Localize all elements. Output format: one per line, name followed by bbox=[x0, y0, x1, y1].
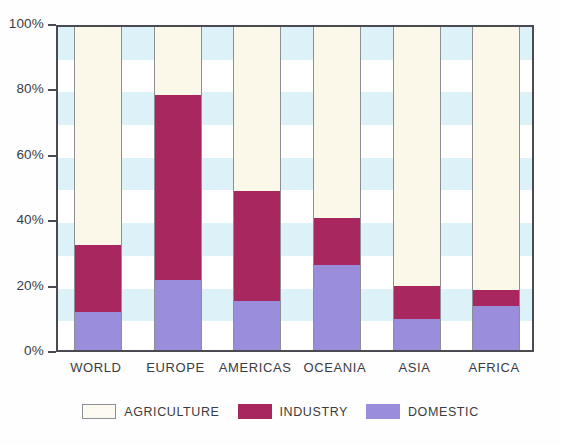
y-tick-mark bbox=[48, 351, 56, 353]
bar-segment-agriculture[interactable] bbox=[233, 25, 281, 191]
bar-segment-domestic[interactable] bbox=[233, 301, 281, 350]
legend-item-industry[interactable]: INDUSTRY bbox=[238, 404, 348, 419]
bar-segment-industry[interactable] bbox=[313, 218, 361, 265]
y-tick-label: 20% bbox=[0, 278, 44, 293]
bar-segment-agriculture[interactable] bbox=[393, 25, 441, 286]
chart-legend: AGRICULTUREINDUSTRYDOMESTIC bbox=[0, 404, 561, 419]
bar-group-world[interactable] bbox=[74, 27, 122, 350]
bar-group-africa[interactable] bbox=[472, 27, 520, 350]
bar-group-asia[interactable] bbox=[393, 27, 441, 350]
legend-item-agriculture[interactable]: AGRICULTURE bbox=[82, 404, 219, 419]
bar-segment-industry[interactable] bbox=[472, 290, 520, 306]
bar-segment-industry[interactable] bbox=[74, 245, 122, 312]
bar-group-oceania[interactable] bbox=[313, 27, 361, 350]
legend-swatch-agriculture-icon bbox=[82, 404, 116, 419]
y-tick-label: 60% bbox=[0, 147, 44, 162]
legend-swatch-industry-icon bbox=[238, 404, 272, 419]
bar-segment-agriculture[interactable] bbox=[154, 25, 202, 95]
y-tick-label: 40% bbox=[0, 212, 44, 227]
bar-segment-domestic[interactable] bbox=[472, 306, 520, 350]
bar-segment-industry[interactable] bbox=[154, 95, 202, 280]
chart-figure: 0%20%40%60%80%100% WORLDEUROPEAMERICASOC… bbox=[0, 0, 561, 445]
bar-segment-agriculture[interactable] bbox=[472, 25, 520, 290]
bars-layer bbox=[58, 27, 532, 350]
legend-label: AGRICULTURE bbox=[124, 405, 219, 419]
legend-label: INDUSTRY bbox=[280, 405, 348, 419]
bar-segment-domestic[interactable] bbox=[393, 319, 441, 350]
y-tick-mark bbox=[48, 155, 56, 157]
y-tick-mark bbox=[48, 89, 56, 91]
bar-group-americas[interactable] bbox=[233, 27, 281, 350]
y-tick-label: 100% bbox=[0, 16, 44, 31]
bar-segment-domestic[interactable] bbox=[74, 312, 122, 350]
bar-segment-industry[interactable] bbox=[393, 286, 441, 319]
legend-swatch-domestic-icon bbox=[366, 404, 400, 419]
plot-area bbox=[56, 25, 534, 352]
y-tick-label: 80% bbox=[0, 81, 44, 96]
bar-segment-agriculture[interactable] bbox=[74, 25, 122, 245]
y-tick-label: 0% bbox=[0, 343, 44, 358]
bar-segment-industry[interactable] bbox=[233, 191, 281, 301]
y-tick-mark bbox=[48, 24, 56, 26]
x-tick-label-africa: AFRICA bbox=[434, 360, 554, 375]
legend-label: DOMESTIC bbox=[408, 405, 479, 419]
bar-segment-domestic[interactable] bbox=[154, 280, 202, 350]
legend-item-domestic[interactable]: DOMESTIC bbox=[366, 404, 479, 419]
bar-segment-agriculture[interactable] bbox=[313, 25, 361, 218]
y-tick-mark bbox=[48, 286, 56, 288]
y-tick-mark bbox=[48, 220, 56, 222]
bar-segment-domestic[interactable] bbox=[313, 265, 361, 350]
bar-group-europe[interactable] bbox=[154, 27, 202, 350]
